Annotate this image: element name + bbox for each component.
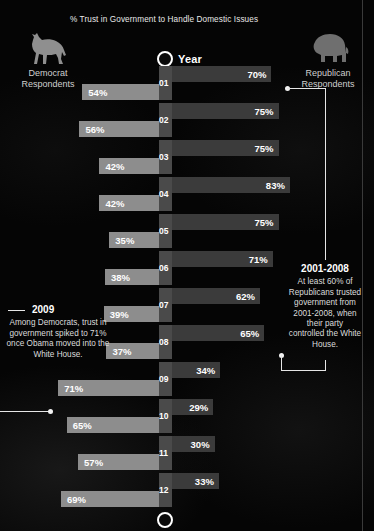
chart-row: 33%69%12: [0, 473, 374, 510]
bar-republican-value: 75%: [254, 106, 278, 117]
bar-republican-value: 71%: [249, 254, 273, 265]
bar-republican-value: 30%: [191, 439, 215, 450]
year-tick-label: 11: [159, 448, 173, 458]
annotation-2009-body: Among Democrats, trust in government spi…: [7, 318, 110, 358]
bar-democrat-value: 38%: [105, 272, 130, 283]
year-tick-label: 08: [159, 337, 173, 347]
bar-republican-value: 70%: [247, 69, 271, 80]
bar-democrat: 39%: [104, 306, 159, 322]
connector-line-republican-h: [287, 88, 326, 89]
bar-republican: 83%: [172, 177, 290, 193]
bar-democrat-value: 54%: [82, 87, 107, 98]
bar-republican-value: 29%: [189, 402, 213, 413]
bar-republican: 71%: [172, 251, 273, 267]
connector-line-republican-lower-v: [281, 355, 282, 371]
bar-democrat-value: 57%: [78, 457, 103, 468]
chart-row: 29%65%10: [0, 399, 374, 436]
year-tick-label: 02: [159, 115, 173, 125]
bar-democrat-value: 42%: [99, 161, 124, 172]
annotation-2009-heading: 2009: [6, 305, 110, 315]
annotation-2001-2008: 2001-2008 At least 60% of Republicans tr…: [288, 264, 362, 350]
bar-democrat: 56%: [79, 121, 159, 137]
connector-line-democrat-h: [0, 411, 50, 412]
infographic-canvas: % Trust in Government to Handle Domestic…: [0, 0, 374, 531]
bar-republican: 34%: [172, 362, 220, 378]
bar-democrat-value: 37%: [106, 346, 131, 357]
bar-democrat: 42%: [99, 195, 159, 211]
donkey-icon: [2, 33, 94, 65]
bar-democrat: 69%: [61, 491, 159, 507]
bar-democrat-value: 56%: [79, 124, 104, 135]
year-tick-label: 05: [159, 226, 173, 236]
bar-democrat-value: 71%: [58, 383, 83, 394]
bar-republican: 70%: [172, 66, 271, 82]
bar-republican-value: 34%: [196, 365, 220, 376]
year-tick-label: 06: [159, 263, 173, 273]
annotation-2001-2008-body: At least 60% of Republicans trusted gove…: [289, 277, 361, 348]
bar-democrat: 42%: [99, 158, 159, 174]
year-axis-label: Year: [178, 53, 202, 65]
annotation-2009: 2009 Among Democrats, trust in governmen…: [6, 305, 110, 360]
connector-line-republican-lower-v2: [325, 360, 326, 371]
year-tick-label: 12: [159, 485, 173, 495]
bar-democrat: 38%: [105, 269, 159, 285]
bar-democrat: 35%: [109, 232, 159, 248]
bar-democrat: 54%: [82, 84, 159, 100]
page-title: % Trust in Government to Handle Domestic…: [70, 15, 300, 24]
elephant-icon: [282, 33, 374, 65]
chart-row: 75%42%03: [0, 140, 374, 177]
connector-dot-democrat: [48, 409, 53, 414]
bar-republican: 33%: [172, 473, 219, 489]
chart-row: 75%56%02: [0, 103, 374, 140]
bar-democrat-value: 69%: [61, 494, 86, 505]
bar-democrat-value: 35%: [109, 235, 134, 246]
bar-republican-value: 83%: [266, 180, 290, 191]
chart-row: 83%42%04: [0, 177, 374, 214]
bar-democrat-value: 42%: [99, 198, 124, 209]
circle-marker-top-icon: [157, 51, 173, 67]
bar-republican: 29%: [172, 399, 213, 415]
year-tick-label: 04: [159, 189, 173, 199]
connector-line-republican-v: [325, 88, 326, 260]
year-tick-label: 01: [159, 78, 173, 88]
bar-democrat: 65%: [67, 417, 159, 433]
chart-row: 75%35%05: [0, 214, 374, 251]
year-tick-label: 07: [159, 300, 173, 310]
chart-row: 70%54%01: [0, 66, 374, 103]
bar-republican-value: 65%: [240, 328, 264, 339]
chart-row: 34%71%09: [0, 362, 374, 399]
bar-democrat: 71%: [58, 380, 159, 396]
year-tick-label: 09: [159, 374, 173, 384]
chart-row: 30%57%11: [0, 436, 374, 473]
bar-republican: 62%: [172, 288, 260, 304]
bar-democrat: 57%: [78, 454, 159, 470]
bar-democrat: 37%: [106, 343, 159, 359]
bar-republican: 75%: [172, 214, 279, 230]
bar-republican-value: 62%: [236, 291, 260, 302]
circle-marker-bottom-icon: [157, 512, 173, 528]
year-tick-label: 10: [159, 411, 173, 421]
bar-democrat-value: 65%: [67, 420, 92, 431]
bar-republican: 75%: [172, 103, 279, 119]
year-axis-marker: Year: [157, 51, 202, 67]
bar-republican-value: 33%: [195, 476, 219, 487]
annotation-2001-2008-heading: 2001-2008: [288, 264, 362, 274]
bar-republican: 75%: [172, 140, 279, 156]
bar-republican: 65%: [172, 325, 264, 341]
bar-republican-value: 75%: [254, 143, 278, 154]
bar-republican-value: 75%: [254, 217, 278, 228]
year-tick-label: 03: [159, 152, 173, 162]
bar-republican: 30%: [172, 436, 215, 452]
connector-line-republican-lower-h: [281, 370, 326, 371]
